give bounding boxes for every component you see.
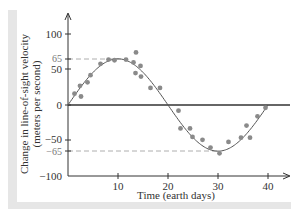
data-point xyxy=(88,73,93,78)
data-point xyxy=(148,86,153,91)
data-point xyxy=(263,105,268,110)
data-point xyxy=(217,151,222,156)
data-point xyxy=(244,123,249,128)
x-tick-40: 40 xyxy=(263,180,275,192)
data-point xyxy=(176,108,181,113)
y-tick-50: 50 xyxy=(51,63,63,75)
y-axis-title-line1: Change in line-of-sight velocity xyxy=(18,33,30,174)
data-point xyxy=(124,57,129,62)
y-tick-100: 100 xyxy=(46,28,63,40)
data-point xyxy=(178,126,183,131)
data-point xyxy=(98,61,103,66)
data-point xyxy=(190,135,195,140)
data-point xyxy=(131,60,136,65)
data-point xyxy=(200,137,205,142)
data-point xyxy=(239,135,244,140)
data-point xyxy=(72,91,77,96)
data-point xyxy=(106,57,111,62)
data-point xyxy=(248,135,253,140)
y-tick-0: 0 xyxy=(57,99,63,111)
data-point xyxy=(138,64,143,69)
y-tick-neg100: −100 xyxy=(39,170,62,182)
data-point xyxy=(226,140,231,145)
data-point xyxy=(208,145,213,150)
y-tick-neg65: −65 xyxy=(46,146,62,157)
data-point xyxy=(85,80,90,85)
data-point xyxy=(139,74,144,79)
x-tick-10: 10 xyxy=(113,180,125,192)
chart-canvas: 100 65 50 0 −50 −65 −100 10 20 30 40 Tim… xyxy=(0,0,304,217)
data-point xyxy=(112,58,117,63)
data-point xyxy=(134,50,139,55)
data-points xyxy=(72,50,268,156)
data-point xyxy=(79,94,84,99)
data-point xyxy=(255,114,260,119)
y-tick-neg50: −50 xyxy=(45,133,63,145)
data-point xyxy=(78,83,83,88)
y-axis-title-line2: (meters per second) xyxy=(30,60,43,147)
data-point xyxy=(158,86,163,91)
data-point xyxy=(133,71,138,76)
x-axis-title: Time (earth days) xyxy=(137,189,215,202)
data-point xyxy=(188,126,193,131)
